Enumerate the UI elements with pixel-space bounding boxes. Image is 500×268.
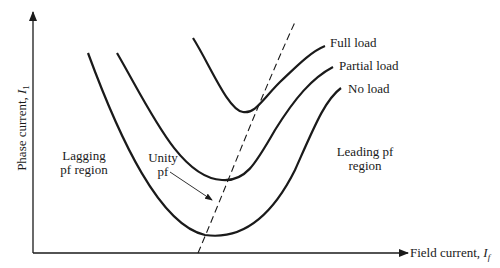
unity-pf-line (198, 22, 295, 253)
unity-pf-label-line1: Unity (148, 150, 178, 165)
x-axis-label: Field current, If (410, 245, 492, 262)
leading-region-label-line1: Leading pf (337, 144, 394, 159)
no-load-label: No load (348, 81, 390, 96)
lagging-region-label-line2: pf region (60, 162, 108, 177)
full-load-curve (193, 38, 325, 112)
full-load-label: Full load (330, 35, 377, 50)
no-load-curve (88, 53, 341, 236)
lagging-region-label-line1: Lagging (62, 148, 106, 163)
v-curves-diagram: Full load Partial load No load Unity pf … (0, 0, 500, 268)
y-axis-label: Phase current, I1 (14, 85, 31, 171)
leading-region-label-line2: region (348, 158, 382, 173)
unity-pf-label-line2: pf (158, 164, 170, 179)
partial-load-label: Partial load (339, 58, 399, 73)
